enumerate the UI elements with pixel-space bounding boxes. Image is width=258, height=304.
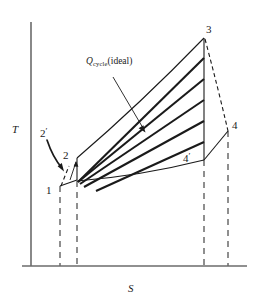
state-point-label-3: 3 [206,24,212,35]
state-point-1-text: 1 [46,184,52,196]
state-point-label-2-prime: 2′ [40,127,47,139]
curve-2-to-3-upper-boundary [77,38,204,158]
state-point-3-text: 3 [206,23,212,35]
point-2-pointer-arrowhead [74,161,79,167]
t-s-diagram-figure: T S Qcycle(ideal) 1 2′ 2 3 4′ 4 [0,0,258,304]
q-cycle-leader-group [113,77,146,133]
q-symbol: Q [86,56,93,66]
curve-4-prime-to-4 [204,131,228,160]
y-axis-label: T [12,124,18,135]
hatch-line-3 [80,100,204,184]
q-cycle-ideal-label: Qcycle(ideal) [86,57,132,67]
curve-3-to-4-actual-expansion [205,39,228,131]
q-subscript: cycle [93,60,108,67]
x-axis-label: S [128,283,134,294]
state-point-4-text: 4 [232,119,238,131]
state-point-2-prime-mark: ′ [46,126,48,136]
point-2-prime-callout-arc [47,140,62,168]
state-point-2-text: 2 [63,149,69,161]
q-suffix: (ideal) [108,56,133,66]
state-point-label-2: 2 [63,150,69,161]
state-point-4-prime-mark: ′ [189,151,191,161]
state-point-label-4: 4 [232,120,238,131]
axes-group [22,22,247,266]
state-point-label-4-prime: 4′ [183,152,190,164]
diagram-canvas [0,0,258,304]
state-point-label-1: 1 [46,185,52,196]
point-2-prime-callout-group [47,140,64,172]
